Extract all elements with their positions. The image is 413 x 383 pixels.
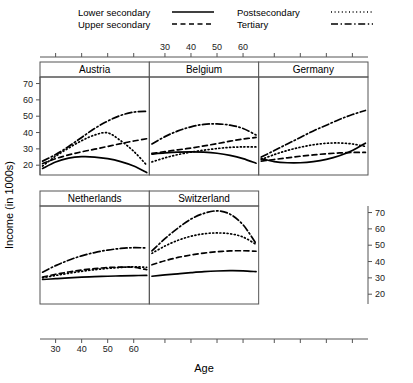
- bottom-axis-tick-label: 50: [103, 344, 113, 354]
- right-y-axis: 203040506070: [368, 206, 385, 304]
- legend-label-tertiary: Tertiary: [237, 19, 268, 30]
- bottom-axis-tick-label: 30: [51, 344, 61, 354]
- bottom-axis-tick-label: 60: [129, 344, 139, 354]
- curve-austria-tertiary: [43, 111, 147, 161]
- top-axis: 30405060: [40, 42, 368, 57]
- strip-label-netherlands: Netherlands: [68, 193, 122, 204]
- panel-curves-switzerland: [152, 211, 256, 276]
- curve-belgium-postsecondary: [152, 147, 256, 162]
- legend-label-postsecondary: Postsecondary: [237, 7, 300, 18]
- legend-label-upper-secondary: Upper secondary: [78, 19, 151, 30]
- panel-belgium: Belgium: [149, 62, 258, 175]
- chart-root: Lower secondaryUpper secondaryPostsecond…: [0, 0, 413, 383]
- curve-germany-upper-secondary: [261, 152, 365, 161]
- bottom-axis: 30405060: [40, 339, 368, 354]
- panel-netherlands: Netherlands: [40, 191, 149, 304]
- top-axis-tick-label: 50: [212, 42, 222, 52]
- left-axis-tick-label: 30: [23, 144, 33, 154]
- bottom-axis-tick-label: 40: [77, 344, 87, 354]
- left-y-axis: 203040506070: [23, 77, 40, 175]
- curve-austria-lower-secondary: [43, 157, 147, 173]
- strip-label-germany: Germany: [293, 64, 334, 75]
- panel-frame-belgium: [149, 77, 258, 175]
- panel-curves-belgium: [152, 124, 256, 163]
- curve-belgium-lower-secondary: [152, 152, 256, 163]
- left-axis-tick-label: 50: [23, 111, 33, 121]
- y-axis-title: Income (in 1000s): [3, 161, 15, 249]
- left-axis-tick-label: 20: [23, 160, 33, 170]
- panel-frame-austria: [40, 77, 149, 175]
- right-axis-tick-label: 50: [375, 240, 385, 250]
- legend: Lower secondaryUpper secondaryPostsecond…: [78, 7, 373, 30]
- curve-netherlands-lower-secondary: [43, 275, 147, 279]
- x-axis-title: Age: [194, 362, 214, 374]
- top-axis-tick-label: 30: [160, 42, 170, 52]
- right-axis-tick-label: 70: [375, 208, 385, 218]
- panel-curves-germany: [261, 110, 365, 162]
- left-axis-tick-label: 40: [23, 128, 33, 138]
- top-axis-tick-label: 60: [238, 42, 248, 52]
- panel-austria: Austria: [40, 62, 149, 175]
- panel-frame-netherlands: [40, 206, 149, 304]
- panel-curves-netherlands: [43, 248, 147, 280]
- panel-frame-germany: [259, 77, 368, 175]
- left-axis-tick-label: 70: [23, 79, 33, 89]
- curve-germany-tertiary: [261, 110, 365, 157]
- curve-belgium-tertiary: [152, 124, 256, 144]
- panel-frame-switzerland: [149, 206, 258, 304]
- curve-switzerland-upper-secondary: [152, 251, 256, 265]
- legend-label-lower-secondary: Lower secondary: [78, 7, 151, 18]
- right-axis-tick-label: 20: [375, 289, 385, 299]
- panel-switzerland: Switzerland: [149, 191, 258, 304]
- right-axis-tick-label: 40: [375, 257, 385, 267]
- top-axis-tick-label: 40: [186, 42, 196, 52]
- left-axis-tick-label: 60: [23, 95, 33, 105]
- strip-label-belgium: Belgium: [186, 64, 222, 75]
- right-axis-tick-label: 60: [375, 224, 385, 234]
- right-axis-tick-label: 30: [375, 273, 385, 283]
- strip-label-switzerland: Switzerland: [178, 193, 230, 204]
- panel-curves-austria: [43, 111, 147, 172]
- curve-austria-upper-secondary: [43, 139, 147, 164]
- curve-belgium-upper-secondary: [152, 137, 256, 153]
- trellis-chart: Lower secondaryUpper secondaryPostsecond…: [0, 0, 413, 383]
- curve-switzerland-lower-secondary: [152, 271, 256, 277]
- strip-label-austria: Austria: [79, 64, 111, 75]
- panel-germany: Germany: [259, 62, 368, 175]
